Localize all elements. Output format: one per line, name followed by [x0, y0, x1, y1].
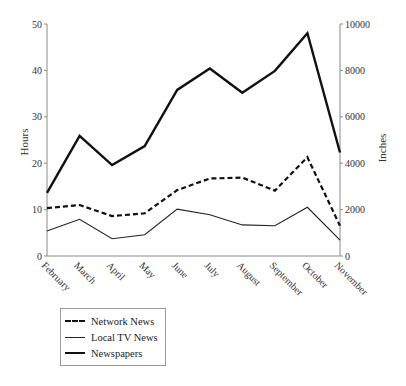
legend-label: Local TV News — [91, 332, 158, 343]
y2-tick-label: 2000 — [345, 204, 365, 215]
y-tick-label: 20 — [32, 158, 42, 169]
thin-line-swatch-icon — [65, 337, 85, 338]
axes: 010203040500200040006000800010000Februar… — [32, 19, 371, 299]
y-tick-label: 0 — [37, 251, 42, 262]
x-tick-label: June — [170, 260, 191, 281]
thick-line-swatch-icon — [65, 352, 85, 354]
x-tick-label: August — [235, 260, 263, 288]
x-tick-label: March — [72, 260, 98, 286]
y2-axis-title-inches: Inches — [376, 134, 388, 163]
y-tick-label: 40 — [32, 65, 42, 76]
x-tick-label: May — [137, 260, 158, 281]
legend-label: Newspapers — [91, 348, 142, 359]
y-axis-title-hours: Hours — [18, 129, 30, 156]
series-line-local-tv-news — [47, 207, 340, 240]
y-tick-label: 10 — [32, 204, 42, 215]
y2-tick-label: 4000 — [345, 158, 365, 169]
x-tick-label: September — [267, 260, 305, 298]
legend-item-local-tv-news: Local TV News — [65, 329, 165, 345]
x-tick-label: October — [300, 260, 331, 291]
y-tick-label: 50 — [32, 19, 42, 30]
y-tick-label: 30 — [32, 111, 42, 122]
x-tick-label: February — [40, 260, 73, 293]
y2-tick-label: 8000 — [345, 65, 365, 76]
x-tick-label: April — [105, 260, 128, 283]
y2-tick-label: 10000 — [345, 19, 370, 30]
x-tick-label: November — [333, 260, 371, 298]
legend-item-network-news: Network News — [65, 313, 165, 329]
x-tick-label: July — [202, 260, 222, 280]
legend: Network News Local TV News Newspapers — [60, 308, 166, 366]
y2-tick-label: 6000 — [345, 111, 365, 122]
legend-item-newspapers: Newspapers — [65, 345, 165, 361]
series-line-network-news — [47, 157, 340, 226]
dashed-line-swatch-icon — [65, 320, 85, 322]
data-lines — [47, 33, 340, 240]
y2-tick-label: 0 — [345, 251, 350, 262]
legend-label: Network News — [91, 316, 154, 327]
